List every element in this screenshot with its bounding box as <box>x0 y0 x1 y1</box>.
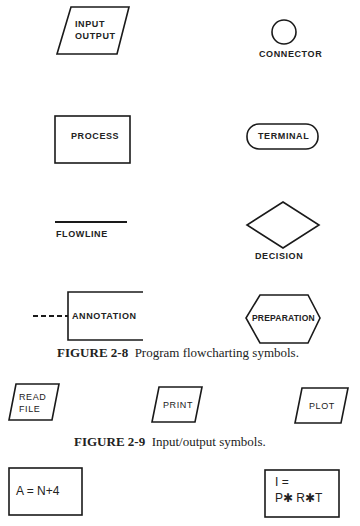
connector-symbol-shape <box>272 20 296 44</box>
plot-label: PLOT <box>309 401 335 411</box>
process-example-left-text: A = N+4 <box>16 484 59 498</box>
figure-2-9-caption: FIGURE 2-9 Input/output symbols. <box>74 434 266 450</box>
read-file-label: READ FILE <box>19 391 46 415</box>
terminal-label: TERMINAL <box>258 131 309 141</box>
process-label: PROCESS <box>71 131 119 141</box>
figure-2-9-number: FIGURE 2-9 <box>74 434 145 449</box>
input-output-label-line1: INPUT <box>75 18 116 30</box>
print-label: PRINT <box>163 400 193 410</box>
figure-2-8-number: FIGURE 2-8 <box>57 345 128 360</box>
read-file-label-line1: READ <box>19 391 46 403</box>
decision-label: DECISION <box>255 251 303 261</box>
preparation-label: PREPARATION <box>252 313 315 323</box>
annotation-label: ANNOTATION <box>72 311 137 321</box>
process-example-right-line2: P✱ R✱T <box>275 490 322 506</box>
connector-label: CONNECTOR <box>259 49 322 59</box>
input-output-label-line2: OUTPUT <box>75 30 116 42</box>
read-file-label-line2: FILE <box>19 403 46 415</box>
decision-symbol-shape <box>247 202 319 248</box>
figure-2-9-text: Input/output symbols. <box>152 434 266 449</box>
figure-2-8-caption: FIGURE 2-8 Program flowcharting symbols. <box>57 345 299 361</box>
figure-2-8-text: Program flowcharting symbols. <box>135 345 299 360</box>
process-example-right-line1: I = <box>275 474 322 490</box>
input-output-label: INPUT OUTPUT <box>75 18 116 42</box>
process-example-right-text: I = P✱ R✱T <box>275 474 322 506</box>
flowline-label: FLOWLINE <box>56 229 108 239</box>
